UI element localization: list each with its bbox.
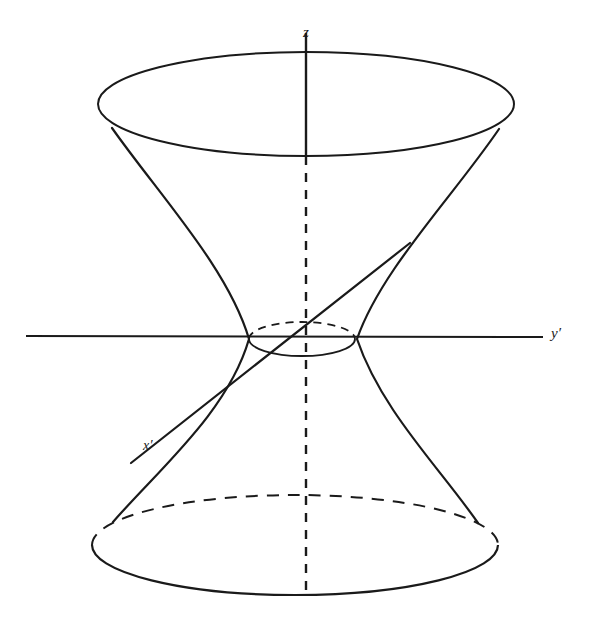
hyperboloid-diagram-canvas: [0, 0, 591, 640]
y-axis-label: y′: [551, 325, 561, 342]
x-axis-ruling-line: [131, 243, 410, 463]
x-axis-label: x′: [143, 438, 153, 454]
bottom-rim-ellipse: [92, 495, 498, 595]
bottom-rim-front-arc-solid: [92, 545, 498, 595]
bottom-rim-back-arc-dashed: [92, 495, 498, 545]
right-hyperbola-branch: [357, 129, 499, 523]
y-axis-line: [26, 336, 543, 337]
hyperboloid-figure: z y′ x′: [0, 0, 591, 640]
waist-front-arc-solid: [249, 339, 355, 356]
z-axis-label: z: [303, 24, 309, 41]
